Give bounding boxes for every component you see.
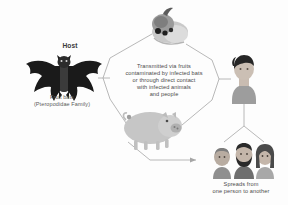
transmission-text: Transmitted via fruits contaminated by i…: [112, 63, 216, 98]
bracket-left: [103, 58, 110, 99]
fork-to-group: [224, 126, 264, 142]
person-icon: [232, 55, 256, 104]
spread-caption-line-1: Spreads from: [198, 181, 284, 188]
spread-caption: Spreads from one person to another: [198, 181, 284, 195]
pig-icon: [123, 112, 182, 150]
line-fruit-to-bracket: [186, 44, 212, 60]
arrow-head-icon: [190, 158, 196, 163]
host-label: Host: [42, 42, 98, 50]
transmission-line-3: or through direct contact: [112, 77, 216, 84]
transmission-line-2: contaminated by infected bats: [112, 70, 216, 77]
bat-caption-line-2: (Pteropodidae Family): [14, 101, 110, 108]
bat-caption-line-1: Fruit bats: [14, 94, 110, 101]
transmission-line-5: and people: [112, 91, 216, 98]
person-bearded-icon: [234, 143, 254, 179]
person-long-hair-icon: [256, 144, 274, 179]
fruit-icon: [152, 8, 188, 44]
transmission-line-1: Transmitted via fruits: [112, 63, 216, 70]
spread-caption-line-2: one person to another: [198, 188, 284, 195]
group-people-icon: [213, 143, 274, 179]
bat-caption: Fruit bats (Pteropodidae Family): [14, 94, 110, 108]
line-bracket-to-fruit: [110, 34, 152, 58]
diagram-canvas: Host Fruit bats (Pteropodidae Family) Tr…: [0, 0, 288, 205]
person-bald-icon: [213, 148, 231, 179]
transmission-line-4: with infected animals: [112, 84, 216, 91]
